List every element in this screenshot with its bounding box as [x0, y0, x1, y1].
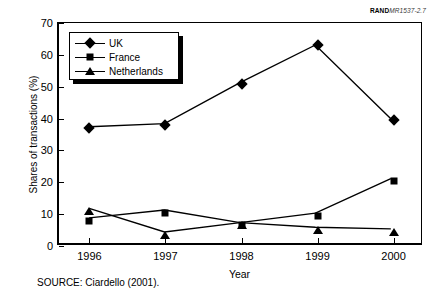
data-point-netherlands: [242, 225, 252, 233]
data-point-uk: [394, 120, 402, 128]
data-point-france: [394, 181, 401, 188]
triangle-marker-icon: [237, 221, 247, 229]
legend-symbol-netherlands: [75, 65, 105, 77]
square-marker-icon: [87, 54, 94, 61]
y-tick-label: 50: [41, 82, 53, 92]
data-point-france: [89, 221, 96, 228]
square-marker-icon: [162, 209, 169, 216]
data-point-netherlands: [394, 232, 404, 240]
legend-item-netherlands: Netherlands: [75, 64, 173, 78]
data-point-netherlands: [318, 230, 328, 238]
legend-label: France: [105, 52, 140, 63]
triangle-marker-icon: [389, 228, 399, 236]
data-point-netherlands: [165, 235, 175, 243]
triangle-marker-icon: [85, 67, 95, 75]
legend-label: UK: [105, 38, 123, 49]
data-point-uk: [89, 128, 97, 136]
triangle-marker-icon: [313, 226, 323, 234]
y-tick-label: 10: [41, 209, 53, 219]
rand-tag-italic: MR1537-2.7: [389, 7, 426, 14]
x-tick-label: 1998: [229, 250, 253, 262]
data-point-france: [165, 213, 172, 220]
legend-symbol-france: [75, 51, 105, 63]
x-tick-label: 1996: [77, 250, 101, 262]
square-marker-icon: [314, 212, 321, 219]
source-note: SOURCE: Ciardello (2001).: [37, 277, 159, 288]
legend-label: Netherlands: [105, 66, 163, 77]
data-point-uk: [165, 125, 173, 133]
y-tick-label: 30: [41, 145, 53, 155]
triangle-marker-icon: [160, 231, 170, 239]
legend-item-france: France: [75, 50, 173, 64]
y-tick-label: 0: [47, 241, 53, 251]
line-france: [89, 179, 391, 223]
legend-symbol-uk: [75, 37, 105, 49]
chart-legend: UKFranceNetherlands: [69, 32, 179, 80]
diamond-marker-icon: [84, 37, 95, 48]
y-tick: [59, 246, 64, 247]
y-tick-label: 60: [41, 50, 53, 60]
y-tick-label: 20: [41, 177, 53, 187]
rand-document-tag: RANDMR1537-2.7: [370, 7, 426, 14]
square-marker-icon: [390, 177, 397, 184]
data-point-uk: [242, 84, 250, 92]
rand-tag-bold: RAND: [370, 7, 389, 14]
x-tick-label: 2000: [381, 250, 405, 262]
x-tick-label: 1999: [305, 250, 329, 262]
triangle-marker-icon: [84, 207, 94, 215]
x-tick-label: 1997: [153, 250, 177, 262]
y-tick-label: 70: [41, 18, 53, 28]
data-point-france: [318, 216, 325, 223]
data-point-netherlands: [89, 211, 99, 219]
figure-container: RANDMR1537-2.7 Shares of transactions (%…: [0, 0, 432, 294]
legend-item-uk: UK: [75, 36, 173, 50]
data-point-uk: [318, 45, 326, 53]
y-tick-label: 40: [41, 114, 53, 124]
